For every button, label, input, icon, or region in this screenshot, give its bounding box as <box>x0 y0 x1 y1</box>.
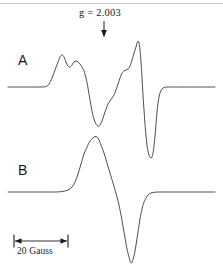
spectrum-plot-canvas <box>0 0 223 277</box>
down-arrow-icon <box>101 21 107 38</box>
spectrum-trace-b <box>8 136 215 263</box>
trace-b-label: B <box>18 162 27 178</box>
scale-bar-label: 20 Gauss <box>17 246 53 256</box>
g-value-label: g = 2.003 <box>79 7 121 18</box>
epr-spectrum-figure: g = 2.003 A B 20 Gauss <box>0 0 223 277</box>
spectrum-trace-a <box>8 41 215 158</box>
trace-a-label: A <box>18 52 27 68</box>
